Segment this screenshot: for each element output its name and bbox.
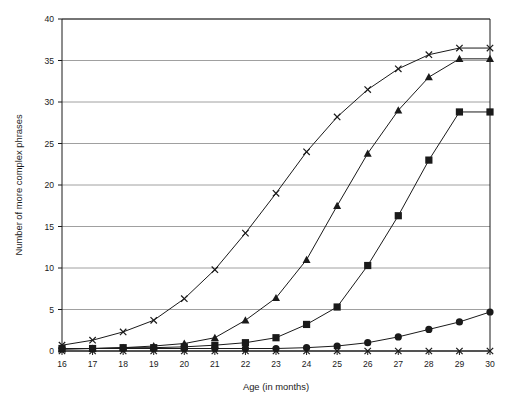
y-tick-label: 0 — [49, 346, 54, 356]
marker-square — [395, 212, 402, 219]
y-tick-label: 10 — [44, 263, 54, 273]
marker-circle — [364, 339, 371, 346]
x-tick-label: 19 — [149, 359, 159, 369]
marker-square — [456, 108, 463, 115]
y-tick-label: 5 — [49, 305, 54, 315]
y-tick-label: 35 — [44, 56, 54, 66]
marker-circle — [456, 318, 463, 325]
chart-background — [0, 0, 518, 396]
marker-square — [486, 108, 493, 115]
x-tick-label: 16 — [57, 359, 67, 369]
x-axis-label: Age (in months) — [243, 381, 309, 392]
chart-figure: 0510152025303540 16171819202122232425262… — [0, 0, 518, 396]
marker-circle — [395, 333, 402, 340]
marker-square — [272, 334, 279, 341]
y-tick-label: 40 — [44, 14, 54, 24]
x-tick-label: 22 — [241, 359, 251, 369]
x-tick-label: 28 — [424, 359, 434, 369]
x-tick-label: 23 — [271, 359, 281, 369]
y-tick-label: 20 — [44, 180, 54, 190]
y-tick-label: 30 — [44, 97, 54, 107]
x-tick-label: 24 — [302, 359, 312, 369]
x-tick-label: 27 — [394, 359, 404, 369]
marker-square — [364, 262, 371, 269]
marker-square — [303, 321, 310, 328]
y-tick-label: 15 — [44, 222, 54, 232]
x-tick-label: 21 — [210, 359, 220, 369]
x-tick-label: 17 — [88, 359, 98, 369]
x-tick-label: 20 — [180, 359, 190, 369]
line-chart: 0510152025303540 16171819202122232425262… — [0, 0, 518, 396]
x-tick-label: 25 — [332, 359, 342, 369]
y-tick-label: 25 — [44, 139, 54, 149]
x-axis-ticks: 161718192021222324252627282930 — [57, 351, 495, 369]
x-tick-label: 26 — [363, 359, 373, 369]
x-tick-label: 18 — [118, 359, 128, 369]
marker-square — [425, 157, 432, 164]
x-tick-label: 30 — [485, 359, 495, 369]
marker-square — [334, 303, 341, 310]
x-tick-label: 29 — [455, 359, 465, 369]
y-axis-label: Number of more complex phrases — [13, 114, 24, 256]
marker-circle — [486, 308, 493, 315]
marker-circle — [425, 326, 432, 333]
